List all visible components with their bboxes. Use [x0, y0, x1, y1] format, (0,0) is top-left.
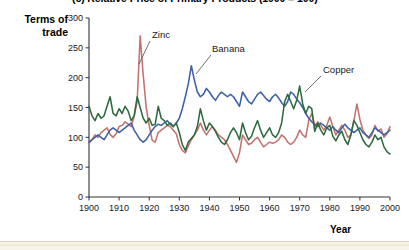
y-tick-label: 0	[78, 192, 83, 202]
y-tick-label: 100	[68, 133, 83, 143]
y-tick-label: 250	[68, 43, 83, 53]
y-tick-label: 300	[68, 13, 83, 23]
series-label-banana: Banana	[212, 43, 245, 54]
series-label-zinc: Zinc	[152, 29, 170, 40]
line-chart-plot: 050100150200250300 190019101920193019401…	[0, 0, 409, 250]
page-bottom-band-inner	[0, 244, 409, 246]
x-tick-label: 1920	[139, 203, 159, 213]
data-series-group	[89, 36, 390, 162]
x-tick-label: 1910	[109, 203, 129, 213]
series-annotations: ZincBananaCopper	[139, 29, 354, 92]
x-tick-label: 1940	[199, 203, 219, 213]
x-tick-label: 2000	[380, 203, 400, 213]
x-tick-label: 1990	[350, 203, 370, 213]
x-axis-ticks: 1900191019201930194019501960197019801990…	[79, 197, 400, 213]
page-bottom-band	[0, 241, 409, 250]
y-tick-label: 50	[73, 162, 83, 172]
figure-relative-price-primary-products: (c) Relative Price of Primary Products (…	[0, 0, 409, 250]
x-tick-label: 1950	[229, 203, 249, 213]
x-tick-label: 1900	[79, 203, 99, 213]
x-tick-label: 1980	[320, 203, 340, 213]
y-tick-label: 200	[68, 73, 83, 83]
y-tick-label: 150	[68, 103, 83, 113]
x-tick-label: 1960	[260, 203, 280, 213]
series-line-zinc	[89, 36, 390, 162]
series-label-copper: Copper	[323, 64, 354, 75]
x-tick-label: 1930	[169, 203, 189, 213]
series-line-copper	[89, 86, 390, 154]
y-axis-ticks: 050100150200250300	[68, 13, 89, 202]
x-tick-label: 1970	[290, 203, 310, 213]
